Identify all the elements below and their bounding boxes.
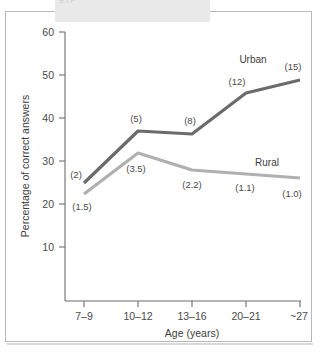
y-axis-title: Percentage of correct answers	[19, 95, 31, 237]
y-tick-label-10: 10	[42, 241, 54, 253]
point-label-urban-2: (8)	[184, 115, 196, 126]
x-axis-title: Age (years)	[165, 327, 219, 339]
point-label-rural-1: (3.5)	[126, 163, 146, 174]
y-tick-label-40: 40	[42, 112, 54, 124]
x-tick-label-3: 20–21	[231, 310, 260, 322]
figure-border-shadow	[7, 343, 313, 345]
y-tick-label-30: 30	[42, 155, 54, 167]
x-tick-label-0: 7–9	[75, 310, 93, 322]
x-tick-label-4: ~27	[290, 310, 308, 322]
series-annotation-rural: Rural	[255, 157, 279, 168]
point-label-urban-3: (12)	[229, 76, 246, 87]
y-tick-label-60: 60	[42, 26, 54, 38]
point-label-rural-0: (1.5)	[72, 201, 92, 212]
point-label-rural-4: (1.0)	[282, 188, 302, 199]
point-label-rural-2: (2.2)	[182, 179, 202, 190]
scan-artifact-text: g ( p	[59, 0, 209, 4]
y-tick-label-50: 50	[42, 69, 54, 81]
point-label-rural-3: (1.1)	[235, 182, 255, 193]
figure-root: 60 50 40 30 20 10 7–9 10–12 13–16 20–21 …	[0, 0, 322, 352]
point-label-urban-4: (15)	[285, 61, 302, 72]
y-tick-label-20: 20	[42, 198, 54, 210]
x-tick-label-2: 13–16	[177, 310, 206, 322]
x-tick-label-1: 10–12	[123, 310, 152, 322]
series-annotation-urban: Urban	[239, 54, 266, 65]
line-chart: 60 50 40 30 20 10 7–9 10–12 13–16 20–21 …	[5, 11, 312, 342]
point-label-urban-0: (2)	[70, 169, 82, 180]
point-label-urban-1: (5)	[130, 113, 142, 124]
